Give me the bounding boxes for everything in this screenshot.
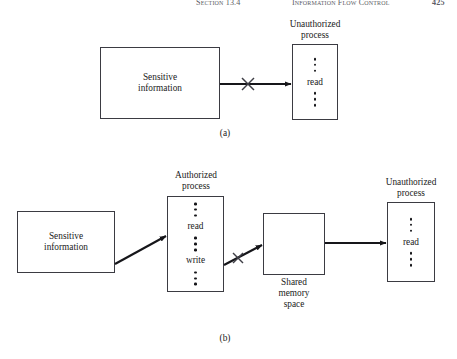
read-label: read [307, 77, 323, 88]
figure-caption-b: (b) [195, 333, 255, 343]
sensitive-information-label-a: Sensitive information [101, 72, 219, 95]
vertical-dots-icon [194, 235, 197, 252]
x-mark-icon [233, 253, 243, 263]
authorized-process-box-b: read write [167, 196, 224, 292]
unauthorized-process-box-b: read [387, 202, 435, 282]
read-label: read [403, 237, 419, 248]
authorized-process-contents-b: read write [168, 199, 223, 288]
vertical-dots-icon [194, 270, 197, 287]
running-head-page-number: 425 [432, 0, 445, 7]
vertical-dots-icon [410, 251, 413, 268]
shared-memory-space-label-b: Shared memory space [258, 277, 330, 311]
unauthorized-process-box-a: read [292, 44, 338, 120]
blocked-flow-arrow-a [220, 78, 291, 90]
blocked-flow-arrow-b2 [224, 245, 262, 265]
unauthorized-process-label-b: Unauthorized process [366, 177, 456, 199]
unauthorized-process-contents-a: read [293, 55, 337, 110]
running-head-section: Section 13.4 [196, 0, 241, 7]
vertical-dots-icon [410, 216, 413, 233]
shared-memory-space-box-b [263, 213, 325, 275]
x-mark-icon [242, 78, 254, 90]
running-head-title: Information Flow Control [292, 0, 390, 7]
write-label: write [186, 256, 205, 267]
vertical-dots-icon [314, 56, 317, 73]
vertical-dots-icon [194, 201, 197, 218]
sensitive-information-box-a: Sensitive information [100, 47, 220, 119]
running-head: Section 13.4 Information Flow Control 42… [0, 0, 457, 9]
figure-caption-a: (a) [195, 128, 255, 138]
unauthorized-process-contents-b: read [388, 215, 434, 270]
allowed-flow-arrow-b1 [115, 236, 166, 264]
read-label: read [188, 221, 204, 232]
sensitive-information-box-b: Sensitive information [17, 211, 115, 273]
figure-page: Section 13.4 Information Flow Control 42… [0, 0, 457, 359]
unauthorized-process-label-a: Unauthorized process [270, 19, 360, 41]
vertical-dots-icon [314, 91, 317, 108]
sensitive-information-label-b: Sensitive information [18, 231, 114, 254]
authorized-process-label-b: Authorized process [151, 170, 241, 192]
